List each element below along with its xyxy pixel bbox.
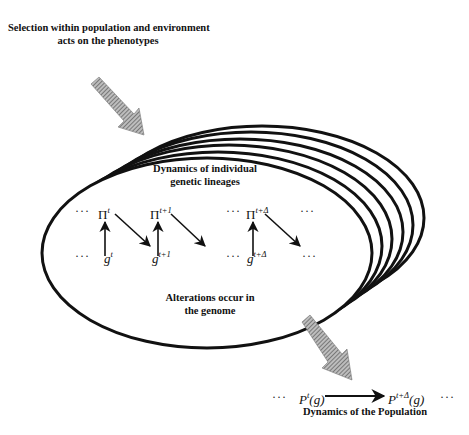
genotype-t-plus-delta: gt+Δ xyxy=(247,247,267,266)
phenotype-t-plus-delta: Πt+Δ xyxy=(246,203,268,222)
ellipsis-left-genotype: ··· xyxy=(75,250,90,262)
genome-alterations-line1: Alterations occur in xyxy=(150,291,270,304)
genome-alterations-label: Alterations occur in the genome xyxy=(150,291,270,317)
ellipsis-population-right: ··· xyxy=(440,391,455,403)
phenotype-t: Πt xyxy=(98,203,110,222)
selection-label: Selection within population and environm… xyxy=(8,21,208,47)
genotype-t: gt xyxy=(104,247,113,266)
ellipsis-right-phenotype: ··· xyxy=(300,205,315,217)
selection-label-line1: Selection within population and environm… xyxy=(8,21,208,34)
selection-arrow-icon xyxy=(91,77,144,135)
genome-alterations-line2: the genome xyxy=(150,304,270,317)
phenotype-t-plus-1: Πt+1 xyxy=(150,203,172,222)
ellipsis-mid-genotype: ··· xyxy=(226,250,241,262)
population-arrow-icon xyxy=(302,315,352,380)
individual-lineages-line2: genetic lineages xyxy=(140,175,270,188)
ellipsis-left-phenotype: ··· xyxy=(75,205,90,217)
selection-label-line2: acts on the phenotypes xyxy=(8,34,208,47)
ellipsis-population-left: ··· xyxy=(272,391,287,403)
ellipsis-mid-phenotype: ··· xyxy=(226,205,241,217)
population-dynamics-label: Dynamics of the Population xyxy=(300,405,430,418)
genotype-t-plus-1: gt+1 xyxy=(152,247,171,266)
individual-lineages-label: Dynamics of individual genetic lineages xyxy=(140,162,270,188)
individual-lineages-line1: Dynamics of individual xyxy=(140,162,270,175)
ellipsis-right-genotype: ··· xyxy=(302,250,317,262)
